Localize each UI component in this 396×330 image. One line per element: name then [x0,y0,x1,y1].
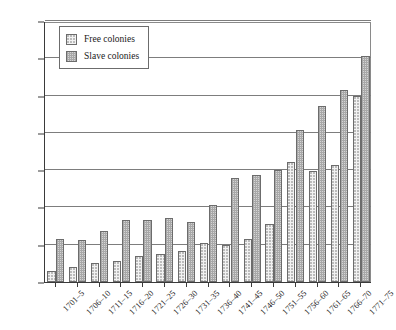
bar-free [135,256,143,282]
x-tick-mark [251,283,252,287]
legend-label: Free colonies [84,34,135,44]
y-tick-mark [38,96,44,97]
bar-free [265,224,273,282]
bar-group [47,239,64,282]
bar-slave [252,175,260,282]
bar-group [156,218,173,282]
x-tick-mark [99,283,100,287]
x-tick-label: 1701–5 [61,288,87,314]
bar-group [287,130,304,282]
y-tick-mark [38,133,44,134]
bar-group [69,240,86,282]
bar-free [47,271,55,282]
bar-free [178,251,186,282]
y-tick-mark [38,171,44,172]
bar-group [200,205,217,282]
bar-slave [122,220,130,282]
bar-slave [143,220,151,282]
bar-free [287,162,295,282]
bar-free [69,267,77,282]
bar-slave [274,170,282,282]
legend-item: Slave colonies [66,49,139,63]
bar-slave [296,130,304,282]
y-tick-mark [38,245,44,246]
bar-free [91,263,99,282]
bar-group [265,170,282,282]
bar-slave [56,239,64,282]
x-tick-mark [142,283,143,287]
bar-slave [100,231,108,282]
x-tick-mark [338,283,339,287]
x-tick-mark [360,283,361,287]
bar-group [353,56,370,283]
gridline [45,95,371,96]
legend-item: Free colonies [66,32,139,46]
bar-free [113,261,121,282]
y-tick-mark [38,59,44,60]
bar-free [244,239,252,282]
bar-slave [78,240,86,282]
bar-free [222,245,230,282]
x-tick-mark [186,283,187,287]
bar-group [309,106,326,282]
x-tick-mark [77,283,78,287]
bar-slave [340,90,348,282]
bar-slave [318,106,326,282]
bar-group [244,175,261,282]
bar-slave [187,222,195,282]
bar-free [200,243,208,282]
x-tick-mark [55,283,56,287]
x-tick-mark [120,283,121,287]
bar-free [331,165,339,282]
bar-slave [209,205,217,282]
bar-slave [165,218,173,282]
bar-slave [231,178,239,282]
plot-border-top [45,22,371,23]
gridline [45,20,371,21]
legend-swatch-slave [66,51,77,62]
bar-group [178,222,195,282]
x-tick-mark [295,283,296,287]
bar-free [156,254,164,282]
bar-group [135,220,152,282]
x-tick-mark [229,283,230,287]
x-tick-mark [164,283,165,287]
bar-slave [361,56,369,283]
bar-group [222,178,239,282]
x-tick-mark [273,283,274,287]
legend-swatch-free [66,34,77,45]
y-tick-mark [38,208,44,209]
bar-group [113,220,130,282]
chart-legend: Free coloniesSlave colonies [59,26,149,69]
x-tick-mark [208,283,209,287]
legend-label: Slave colonies [84,51,139,61]
x-tick-mark [317,283,318,287]
bar-group [331,90,348,282]
bar-free [309,171,317,282]
bar-free [353,96,361,282]
y-tick-mark [38,283,44,284]
y-tick-mark [38,22,44,23]
bar-group [91,231,108,282]
